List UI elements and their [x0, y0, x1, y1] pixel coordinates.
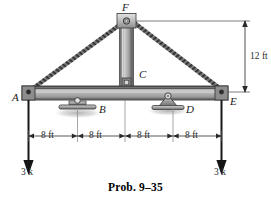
joint-label-B: B: [99, 104, 106, 115]
truss-figure: A B C D E F 12 ft 8 ft 8 ft 8 ft 8 ft 3 …: [0, 0, 271, 203]
joint-label-E: E: [230, 96, 237, 107]
joint-label-D: D: [186, 104, 194, 115]
dimension-label-height: 12 ft: [250, 52, 268, 62]
dimension-label-span-1: 8 ft: [41, 131, 54, 141]
figure-caption: Prob. 9–35: [0, 181, 271, 193]
joint-label-A: A: [12, 92, 19, 103]
load-label-left: 3 k: [21, 168, 33, 178]
beam-end-pin-E: [215, 86, 228, 100]
height-extension-lines: [136, 21, 250, 92]
apex-joint-F: [117, 14, 136, 29]
dimension-label-span-3: 8 ft: [137, 131, 150, 141]
dimension-label-span-4: 8 ft: [185, 131, 198, 141]
dimension-label-span-2: 8 ft: [89, 131, 102, 141]
beam-end-pin-A: [22, 86, 35, 100]
joint-label-C: C: [139, 69, 146, 80]
diagonal-member-AF: [28, 21, 125, 92]
main-beam-AE: [22, 86, 228, 100]
load-label-right: 3 k: [214, 168, 226, 178]
height-dimension-12ft: [242, 20, 248, 93]
joint-label-F: F: [122, 2, 129, 13]
